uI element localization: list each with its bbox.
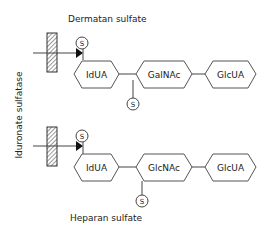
heparan-sulfate-title: Heparan sulfate <box>70 213 142 223</box>
unit-label: IdUA <box>86 70 108 80</box>
sulfate-label: S <box>80 133 85 141</box>
enzyme-block-icon <box>47 33 57 72</box>
enzyme-label: Iduronate sulfatase <box>14 71 24 159</box>
sulfate-label: S <box>140 198 145 206</box>
sulfate-label: S <box>131 101 136 109</box>
dermatan-sulfate-title: Dermatan sulfate <box>68 14 147 24</box>
unit-label: GlcUA <box>217 70 245 80</box>
enzyme-block-icon <box>47 127 57 166</box>
sulfatase-diagram: Iduronate sulfatase Dermatan sulfate S I… <box>0 0 264 232</box>
unit-label: GlcNAc <box>148 163 180 173</box>
dermatan-sulfate-group: Dermatan sulfate S IdUA GalNAc S GlcUA <box>33 14 256 110</box>
heparan-sulfate-group: S IdUA GlcNAc S GlcUA Heparan sulfate <box>33 127 256 223</box>
unit-label: GlcUA <box>217 163 245 173</box>
unit-label: IdUA <box>86 163 108 173</box>
unit-label: GalNAc <box>148 70 181 80</box>
arrow-head-icon <box>76 141 83 151</box>
sulfate-label: S <box>80 40 85 48</box>
arrow-head-icon <box>76 48 83 58</box>
